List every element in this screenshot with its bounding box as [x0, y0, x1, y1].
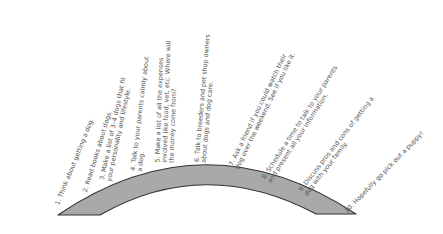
step-label-5: 5. Make a list of all the expenses invol… [154, 40, 180, 163]
arc-band [0, 0, 443, 234]
